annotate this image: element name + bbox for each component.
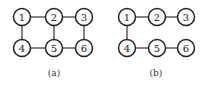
- node-4: 4: [119, 40, 136, 57]
- node-label: 5: [51, 43, 57, 54]
- node-label: 4: [19, 43, 25, 54]
- node-label: 4: [124, 43, 130, 54]
- node-5: 5: [46, 40, 63, 57]
- node-2: 2: [149, 9, 166, 26]
- node-label: 5: [154, 43, 160, 54]
- caption-b: (b): [150, 68, 163, 78]
- node-label: 1: [19, 12, 25, 23]
- node-label: 1: [124, 12, 130, 23]
- node-6: 6: [178, 40, 195, 57]
- graph-b: 123456(b): [119, 9, 195, 79]
- graph-diagrams: 123456(a)123456(b): [0, 0, 209, 86]
- node-2: 2: [46, 9, 63, 26]
- node-label: 6: [81, 43, 87, 54]
- node-4: 4: [14, 40, 31, 57]
- graph-a: 123456(a): [14, 9, 93, 79]
- node-label: 2: [154, 12, 160, 23]
- node-1: 1: [14, 9, 31, 26]
- node-label: 6: [183, 43, 189, 54]
- node-label: 2: [51, 12, 57, 23]
- node-1: 1: [119, 9, 136, 26]
- node-5: 5: [149, 40, 166, 57]
- node-label: 3: [183, 12, 189, 23]
- caption-a: (a): [48, 68, 60, 78]
- node-6: 6: [76, 40, 93, 57]
- node-3: 3: [178, 9, 195, 26]
- node-3: 3: [76, 9, 93, 26]
- node-label: 3: [81, 12, 87, 23]
